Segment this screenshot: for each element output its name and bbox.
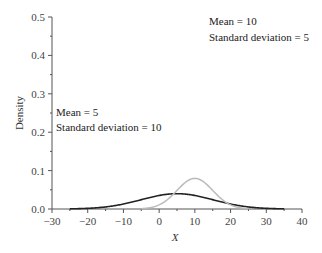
annotation-black-sd: Standard deviation = 10 xyxy=(56,121,162,133)
x-axis-title: X xyxy=(171,231,180,243)
y-tick-label: 0.1 xyxy=(31,165,45,177)
x-tick-label: 40 xyxy=(297,215,309,227)
y-tick-label: 0.4 xyxy=(31,49,45,61)
curves xyxy=(70,178,284,208)
x-tick-label: 20 xyxy=(225,215,237,227)
x-tick-label: 10 xyxy=(189,215,201,227)
x-tick-label: 0 xyxy=(156,215,162,227)
x-tick-label: −10 xyxy=(115,215,133,227)
x-tick-label: −20 xyxy=(79,215,97,227)
x-tick-label: 30 xyxy=(261,215,273,227)
y-tick-label: 0.5 xyxy=(31,11,45,23)
y-tick-label: 0.2 xyxy=(31,126,45,138)
y-tick-label: 0.0 xyxy=(31,203,45,215)
annotation-grey-mean: Mean = 10 xyxy=(209,15,257,27)
annotation-grey-sd: Standard deviation = 5 xyxy=(209,31,309,43)
normal-density-chart: 0.00.10.20.30.40.5−30−20−10010203040 Den… xyxy=(0,0,322,253)
y-axis-title: Density xyxy=(13,95,25,130)
x-tick-label: −30 xyxy=(43,215,61,227)
y-tick-label: 0.3 xyxy=(31,88,45,100)
curve-mean5-sd10 xyxy=(70,194,284,209)
annotation-black-mean: Mean = 5 xyxy=(56,106,99,118)
